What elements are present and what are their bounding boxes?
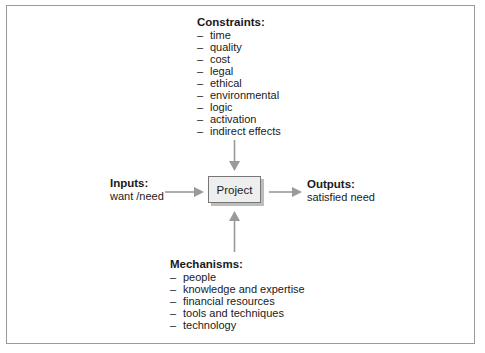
arrow-up-icon bbox=[229, 211, 240, 252]
arrows-layer bbox=[0, 0, 485, 353]
arrow-down-icon bbox=[229, 140, 240, 171]
arrow-right-icon bbox=[165, 187, 204, 197]
arrow-right-icon bbox=[269, 187, 302, 197]
